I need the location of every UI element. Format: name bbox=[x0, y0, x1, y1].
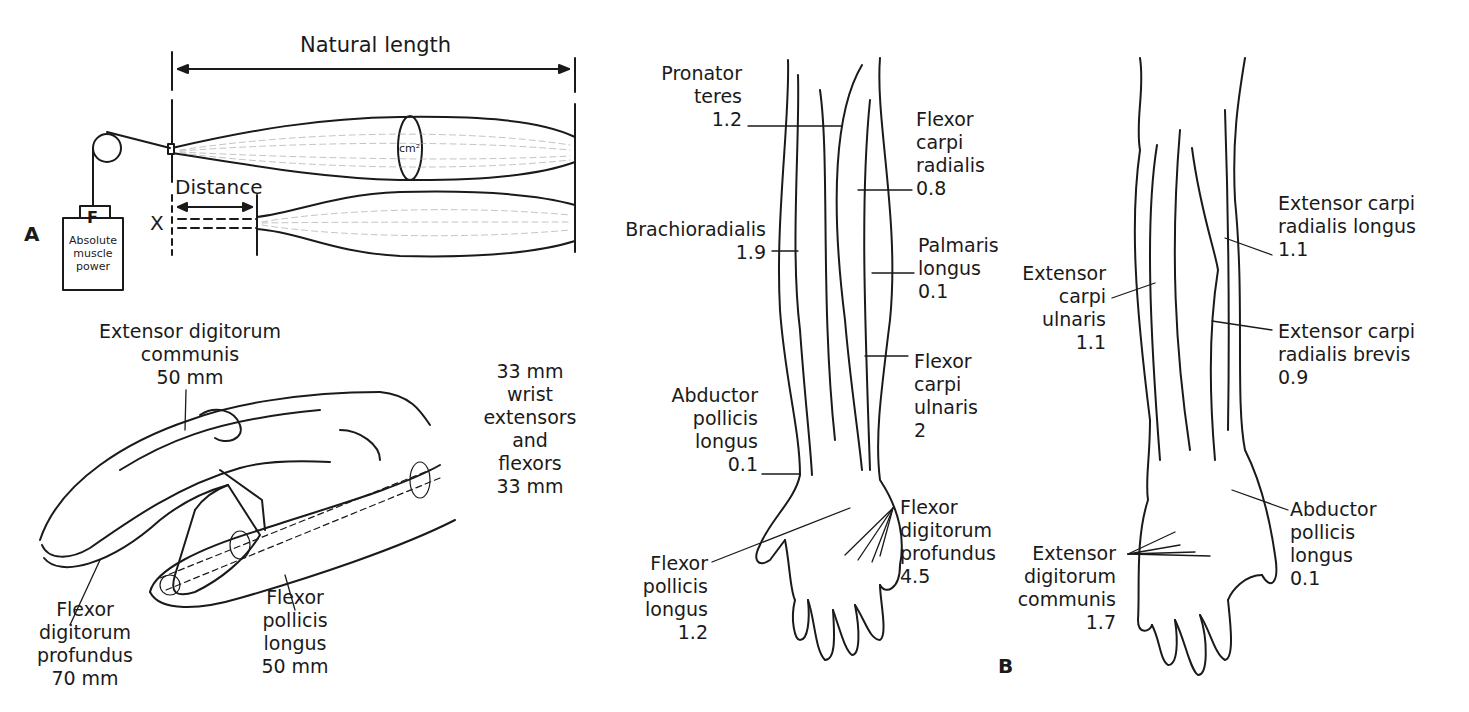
posterior-leader-lines bbox=[1112, 238, 1288, 556]
absolute-muscle-power-box: Absolute muscle power bbox=[63, 234, 123, 273]
anterior-leader-lines bbox=[712, 126, 914, 562]
flexed-hand-illustration bbox=[40, 392, 455, 607]
label-flexor-pollicis-longus-hand: Flexor pollicis longus 50 mm bbox=[245, 586, 345, 678]
label-abductor-pollicis-longus-anterior: Abductor pollicis longus 0.1 bbox=[640, 384, 758, 476]
label-extensor-carpi-ulnaris: Extensor carpi ulnaris 1.1 bbox=[1010, 262, 1106, 354]
label-palmaris-longus: Palmaris longus 0.1 bbox=[918, 234, 999, 303]
force-label: F bbox=[87, 206, 98, 229]
label-flexor-digitorum-profundus-hand: Flexor digitorum profundus 70 mm bbox=[30, 598, 140, 690]
label-flexor-pollicis-longus: Flexor pollicis longus 1.2 bbox=[630, 552, 708, 644]
anterior-forearm-illustration bbox=[756, 58, 901, 660]
label-extensor-digitorum-communis: Extensor digitorum communis 1.7 bbox=[1010, 542, 1116, 634]
x-label: X bbox=[150, 212, 164, 235]
label-extensor-digitorum-communis-hand: Extensor digitorum communis 50 mm bbox=[90, 320, 290, 389]
posterior-forearm-illustration bbox=[1135, 58, 1277, 675]
label-abductor-pollicis-longus-posterior: Abductor pollicis longus 0.1 bbox=[1290, 498, 1377, 590]
natural-length-label: Natural length bbox=[300, 34, 451, 57]
cross-section-label: cm² bbox=[399, 142, 420, 155]
label-flexor-carpi-radialis: Flexor carpi radialis 0.8 bbox=[916, 108, 985, 200]
panel-letter-a: A bbox=[24, 222, 39, 246]
label-flexor-carpi-ulnaris: Flexor carpi ulnaris 2 bbox=[914, 350, 978, 442]
label-flexor-digitorum-profundus: Flexor digitorum profundus 4.5 bbox=[900, 496, 996, 588]
label-extensor-carpi-radialis-brevis: Extensor carpi radialis brevis 0.9 bbox=[1278, 320, 1415, 389]
label-pronator-teres: Pronator teres 1.2 bbox=[620, 62, 742, 131]
label-wrist-extensors-flexors: 33 mm wrist extensors and flexors 33 mm bbox=[480, 360, 580, 498]
panel-letter-b: B bbox=[998, 654, 1013, 678]
distance-label: Distance bbox=[175, 176, 262, 199]
label-extensor-carpi-radialis-longus: Extensor carpi radialis longus 1.1 bbox=[1278, 192, 1416, 261]
muscle-mechanics-diagram bbox=[63, 52, 575, 290]
label-brachioradialis: Brachioradialis 1.9 bbox=[600, 218, 766, 264]
